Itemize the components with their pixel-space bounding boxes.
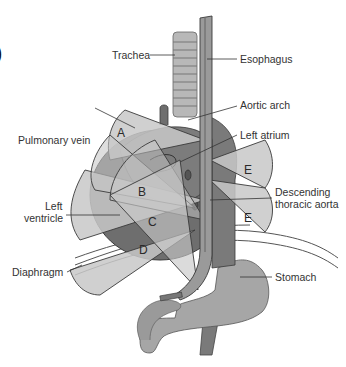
label-left-ventricle-line2: ventricle xyxy=(24,212,63,224)
label-pulmonary-vein: Pulmonary vein xyxy=(18,134,90,146)
trachea-shape xyxy=(173,32,197,117)
label-descending-aorta-line2: thoracic aorta xyxy=(275,198,339,210)
panel-mark: ) xyxy=(0,43,2,64)
sector-a-label: A xyxy=(117,126,125,140)
diagram: ) xyxy=(0,0,346,367)
label-aortic-arch: Aortic arch xyxy=(240,99,290,111)
sector-b-label: B xyxy=(138,185,146,199)
label-stomach: Stomach xyxy=(275,271,316,283)
sector-c-label: C xyxy=(148,215,157,229)
label-esophagus: Esophagus xyxy=(240,53,293,65)
sector-e-lower-label: E xyxy=(244,211,252,225)
label-left-atrium: Left atrium xyxy=(240,129,290,141)
sector-e-upper-label: E xyxy=(244,163,252,177)
anatomy-illustration: A B C D E E xyxy=(0,0,346,367)
label-left-ventricle-line1: Left xyxy=(45,200,63,212)
label-descending-aorta-line1: Descending xyxy=(275,186,330,198)
label-trachea: Trachea xyxy=(112,49,150,61)
sector-d-label: D xyxy=(139,243,148,257)
label-diaphragm: Diaphragm xyxy=(12,266,63,278)
